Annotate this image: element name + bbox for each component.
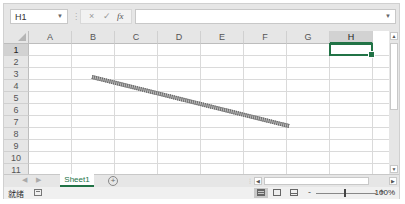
formula-buttons: × ✓ fx <box>80 9 132 24</box>
column-header-g[interactable]: G <box>287 31 330 44</box>
gridline <box>29 79 389 80</box>
page-layout-view-button[interactable] <box>270 188 284 198</box>
separator-icon: ⋮ <box>72 12 80 21</box>
gridline <box>157 44 158 174</box>
enter-icon[interactable]: ✓ <box>103 11 111 21</box>
page-break-icon <box>290 189 298 196</box>
horizontal-scroll-thumb[interactable] <box>264 177 369 185</box>
column-header-f[interactable]: F <box>244 31 287 44</box>
add-sheet-icon[interactable]: + <box>108 176 118 186</box>
gridline <box>286 44 287 174</box>
normal-view-icon <box>257 189 265 196</box>
status-text: 就绪 <box>8 188 24 199</box>
zoom-slider-thumb[interactable] <box>344 189 346 197</box>
vertical-scrollbar[interactable]: ▲ ▼ <box>389 31 399 174</box>
row-header-4[interactable]: 4 <box>4 80 29 92</box>
insert-function-icon[interactable]: fx <box>117 11 124 21</box>
column-header-d[interactable]: D <box>158 31 201 44</box>
column-header-b[interactable]: B <box>72 31 115 44</box>
gridline <box>29 163 389 164</box>
scroll-right-icon[interactable]: ▶ <box>389 177 397 185</box>
column-header-c[interactable]: C <box>115 31 158 44</box>
scroll-up-icon[interactable]: ▲ <box>390 32 398 40</box>
sheet-tab-bar: ◀ ▶ Sheet1 + ⋮ ◀ ▶ <box>4 174 399 187</box>
formula-input[interactable]: ▼ <box>135 9 396 24</box>
formula-bar: H1 ▼ ⋮ × ✓ fx ▼ <box>4 4 399 30</box>
cancel-icon[interactable]: × <box>89 11 94 21</box>
select-all-button[interactable] <box>4 31 29 44</box>
prev-sheet-icon[interactable]: ◀ <box>22 176 27 184</box>
name-box[interactable]: H1 ▼ <box>10 9 68 24</box>
row-header-10[interactable]: 10 <box>4 152 29 164</box>
name-box-value: H1 <box>15 12 27 22</box>
row-header-11[interactable]: 11 <box>4 164 29 174</box>
gridline <box>71 44 72 174</box>
scroll-left-icon[interactable]: ◀ <box>254 177 262 185</box>
zoom-level[interactable]: 100% <box>375 188 395 197</box>
row-header-5[interactable]: 5 <box>4 92 29 104</box>
gridline <box>243 44 244 174</box>
gridline <box>29 151 389 152</box>
tab-splitter-handle[interactable]: ⋮ <box>247 177 253 184</box>
row-header-2[interactable]: 2 <box>4 56 29 68</box>
column-header-a[interactable]: A <box>29 31 72 44</box>
scroll-down-icon[interactable]: ▼ <box>390 165 398 173</box>
row-header-6[interactable]: 6 <box>4 104 29 116</box>
tab-sheet1[interactable]: Sheet1 <box>60 174 94 187</box>
excel-window: H1 ▼ ⋮ × ✓ fx ▼ ABCDEFGH1234567891011 ▲ … <box>3 3 400 199</box>
zoom-slider[interactable] <box>316 193 376 194</box>
line-shape[interactable] <box>92 75 290 128</box>
gridline <box>329 44 330 174</box>
chevron-down-icon[interactable]: ▼ <box>57 13 63 19</box>
gridline <box>114 44 115 174</box>
status-bar: 就绪 - + 100% <box>4 187 399 199</box>
zoom-out-button[interactable]: - <box>308 187 311 197</box>
column-header-e[interactable]: E <box>201 31 244 44</box>
page-break-view-button[interactable] <box>287 188 301 198</box>
gridline <box>200 44 201 174</box>
gridline <box>29 139 389 140</box>
macro-record-icon[interactable] <box>34 189 42 196</box>
page-layout-icon <box>273 189 281 196</box>
gridline <box>372 44 373 174</box>
active-cell[interactable] <box>329 43 373 56</box>
next-sheet-icon[interactable]: ▶ <box>36 176 41 184</box>
gridline <box>29 127 389 128</box>
row-header-1[interactable]: 1 <box>4 44 29 56</box>
row-header-8[interactable]: 8 <box>4 128 29 140</box>
row-header-7[interactable]: 7 <box>4 116 29 128</box>
row-header-9[interactable]: 9 <box>4 140 29 152</box>
gridline <box>29 115 389 116</box>
normal-view-button[interactable] <box>254 188 268 198</box>
row-header-3[interactable]: 3 <box>4 68 29 80</box>
gridline <box>29 91 389 92</box>
worksheet-grid[interactable]: ABCDEFGH1234567891011 <box>4 31 389 174</box>
horizontal-scrollbar[interactable]: ◀ ▶ <box>254 177 397 186</box>
expand-formula-bar-icon[interactable]: ▼ <box>385 13 391 19</box>
vertical-scroll-thumb[interactable] <box>390 43 398 110</box>
gridline <box>29 67 389 68</box>
